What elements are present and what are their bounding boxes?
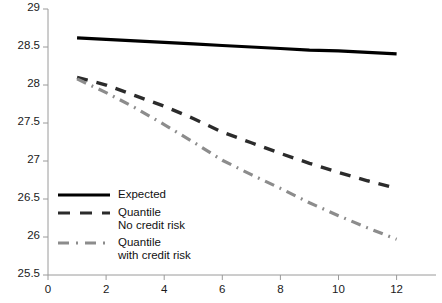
legend-label-quantile-no-credit-risk: Quantile No credit risk — [118, 206, 185, 232]
legend-swatch-dash-dot-line-icon — [56, 236, 112, 250]
chart-container: 25.52626.52727.52828.529 024681012 Expec… — [0, 0, 442, 303]
x-axis-tick-label: 12 — [382, 283, 412, 295]
y-axis-tick-label: 28.5 — [0, 39, 40, 51]
x-axis-tick-label: 4 — [149, 283, 179, 295]
y-axis-tick-label: 29 — [0, 1, 40, 13]
legend-item-quantile-no-credit-risk: Quantile No credit risk — [56, 206, 191, 232]
y-axis-tick-label: 25.5 — [0, 267, 40, 279]
y-axis-tick-label: 26 — [0, 229, 40, 241]
x-axis-tick-label: 6 — [207, 283, 237, 295]
chart-line-series-0 — [77, 38, 397, 54]
y-axis-tick-label: 27.5 — [0, 115, 40, 127]
x-axis-tick-label: 10 — [324, 283, 354, 295]
legend-item-quantile-with-credit-risk: Quantile with credit risk — [56, 236, 191, 262]
legend-label-expected: Expected — [118, 188, 166, 201]
chart-line-series-1 — [77, 77, 397, 188]
x-axis-ticks — [48, 275, 397, 280]
chart-legend: Expected Quantile No credit risk Quantil… — [56, 188, 191, 266]
legend-item-expected: Expected — [56, 188, 191, 202]
y-axis-ticks — [43, 9, 48, 275]
legend-label-quantile-with-credit-risk: Quantile with credit risk — [118, 236, 191, 262]
x-axis-tick-label: 0 — [33, 283, 63, 295]
y-axis-tick-label: 26.5 — [0, 191, 40, 203]
x-axis-tick-label: 8 — [265, 283, 295, 295]
y-axis-tick-label: 27 — [0, 153, 40, 165]
legend-swatch-solid-line-icon — [56, 188, 112, 202]
y-axis-tick-label: 28 — [0, 77, 40, 89]
legend-swatch-dashed-line-icon — [56, 206, 112, 220]
x-axis-tick-label: 2 — [91, 283, 121, 295]
